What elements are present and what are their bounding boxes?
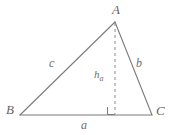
side-label-a: a (81, 119, 87, 131)
side-label-c: c (49, 57, 54, 69)
side-b-line (115, 22, 152, 115)
vertex-label-c: C (156, 104, 165, 117)
altitude-label-subscript: a (100, 74, 104, 83)
vertex-label-b: B (6, 103, 14, 116)
triangle-figure-svg (0, 0, 172, 135)
triangle-altitude-diagram: A B C c b a ha (0, 0, 172, 135)
altitude-label-ha: ha (94, 69, 104, 83)
side-label-b: b (136, 57, 142, 69)
right-angle-marker (108, 107, 116, 115)
vertex-label-a: A (112, 3, 120, 16)
